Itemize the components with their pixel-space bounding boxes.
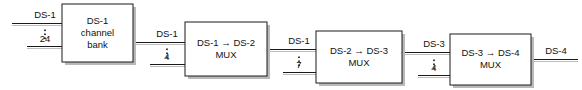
box-ds1-ds2-mux: DS-1 → DS-2MUX <box>185 22 270 79</box>
box-label-line: bank <box>87 39 108 50</box>
box-label-line: DS-2 → DS-3 <box>330 45 388 56</box>
wire-label-bottom: 4 <box>431 62 436 73</box>
box-label-line: channel <box>81 27 114 38</box>
connection-ds1-ds2-mux-to-ds2-ds3-mux: DS-17 <box>267 35 316 74</box>
wire-label-bottom: 7 <box>296 59 301 70</box>
wire-label-top: DS-3 <box>423 38 445 49</box>
diagram-canvas: DS-124DS-14DS-17DS-34DS-4DS-1channelbank… <box>0 0 582 90</box>
box-ds1-channel-bank: DS-1channelbank <box>62 4 136 65</box>
box-label-line: DS-3 → DS-4 <box>461 47 519 58</box>
box-label-line: MUX <box>215 49 237 60</box>
box-ds3-ds4-mux: DS-3 → DS-4MUX <box>450 34 534 88</box>
wire-label-top: DS-1 <box>288 35 310 46</box>
box-ds2-ds3-mux: DS-2 → DS-3MUX <box>316 31 405 86</box>
connection-ds3-ds4-mux-output: DS-4 <box>531 45 578 61</box>
box-label-line: MUX <box>480 59 502 70</box>
dot <box>44 30 46 32</box>
connection-ds2-ds3-mux-to-ds3-ds4-mux: DS-34 <box>402 38 450 77</box>
box-label-line: DS-1 <box>87 15 109 26</box>
wire-label-bottom: 24 <box>40 33 51 44</box>
ds-multiplexing-hierarchy-diagram: DS-124DS-14DS-17DS-34DS-4DS-1channelbank… <box>0 0 582 90</box>
connection-input-to-channel-bank: DS-124 <box>12 9 62 48</box>
connection-channel-bank-to-ds1-ds2-mux: DS-14 <box>133 28 185 66</box>
box-label-line: MUX <box>348 57 370 68</box>
wire-label-top: DS-4 <box>545 45 567 56</box>
wire-label-top: DS-1 <box>34 9 56 20</box>
box-label-line: DS-1 → DS-2 <box>197 37 255 48</box>
wire-label-top: DS-1 <box>156 28 178 39</box>
wire-label-bottom: 4 <box>164 51 169 62</box>
